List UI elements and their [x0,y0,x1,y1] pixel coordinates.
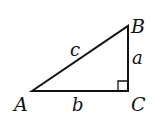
right-triangle-diagram: A B C c a b [0,0,154,116]
side-label-c: c [70,39,80,60]
side-label-a: a [132,47,143,68]
right-angle-marker [118,81,128,91]
vertex-label-a: A [12,93,28,115]
vertex-label-b: B [130,15,145,37]
vertex-label-c: C [131,93,146,115]
side-label-b: b [72,94,84,115]
